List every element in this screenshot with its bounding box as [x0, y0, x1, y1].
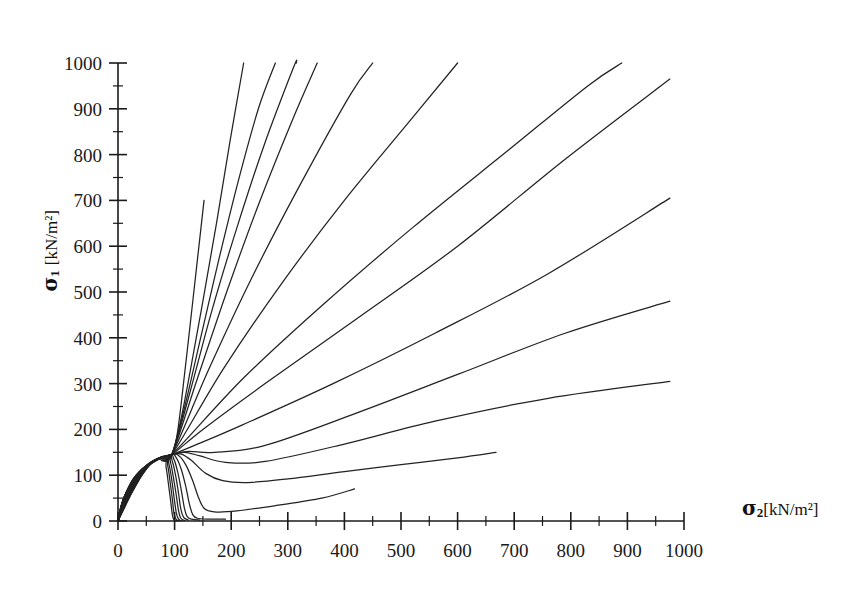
stress-path-curve	[118, 301, 670, 521]
y-axis-title: σ1 [kN/m²]	[38, 210, 63, 291]
x-axis-title: σ2[kN/m²]	[742, 496, 818, 521]
y-axis-title-wrap: σ1 [kN/m²]	[8, 30, 48, 210]
y-axis-ticks	[109, 63, 127, 521]
stress-path-curve	[118, 454, 355, 521]
x-tick-label: 300	[274, 540, 303, 561]
y-tick-label: 400	[74, 328, 103, 349]
y-tick-label: 700	[74, 190, 103, 211]
x-tick-label: 900	[613, 540, 642, 561]
plot-canvas: 01002003004005006007008009001000 0100200…	[0, 0, 848, 595]
y-tick-label: 200	[74, 419, 103, 440]
y-tick-label: 100	[74, 465, 103, 486]
x-tick-label: 0	[113, 540, 123, 561]
curves-layer	[118, 60, 670, 521]
x-tick-label: 800	[557, 540, 586, 561]
y-axis-symbol: σ	[38, 277, 62, 292]
stress-path-curve	[118, 63, 373, 521]
x-tick-label: 200	[217, 540, 246, 561]
x-tick-label: 1000	[665, 540, 703, 561]
y-tick-label: 300	[74, 374, 103, 395]
x-axis-unit: [kN/m²]	[763, 500, 818, 519]
x-tick-label: 400	[330, 540, 359, 561]
stress-path-curve	[118, 200, 204, 521]
x-tick-label: 700	[500, 540, 529, 561]
y-axis-unit: [kN/m²]	[42, 210, 61, 265]
y-tick-label: 800	[74, 145, 103, 166]
x-axis-ticks	[118, 512, 684, 530]
y-axis-subscript: 1	[47, 270, 62, 277]
x-tick-label: 100	[160, 540, 189, 561]
stress-path-curve	[118, 198, 670, 521]
y-tick-label: 600	[74, 236, 103, 257]
x-tick-label: 600	[443, 540, 472, 561]
y-tick-label: 1000	[64, 53, 102, 74]
stress-path-curve	[118, 381, 670, 521]
x-axis-tick-labels: 01002003004005006007008009001000	[113, 540, 703, 561]
y-tick-label: 0	[93, 511, 103, 532]
stress-path-figure: 01002003004005006007008009001000 0100200…	[0, 0, 848, 595]
y-tick-label: 500	[74, 282, 103, 303]
axes-layer	[109, 63, 684, 530]
y-tick-label: 900	[74, 99, 103, 120]
y-axis-tick-labels: 01002003004005006007008009001000	[64, 53, 102, 532]
x-tick-label: 500	[387, 540, 416, 561]
x-axis-symbol: σ	[742, 496, 757, 520]
stress-path-curve	[118, 79, 670, 521]
